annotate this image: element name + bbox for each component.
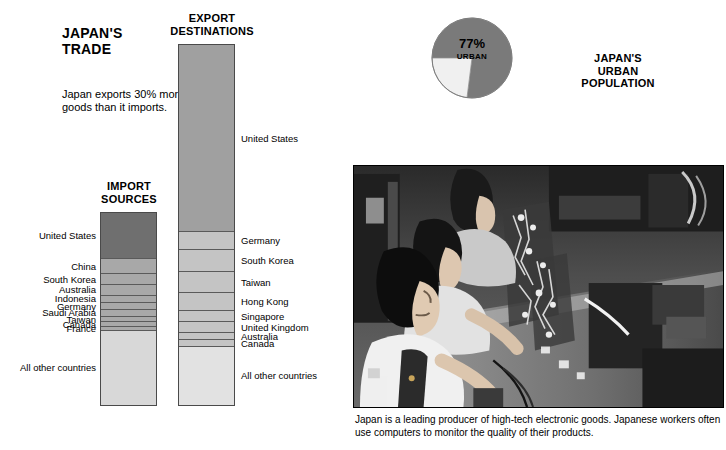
bar-segment	[179, 333, 234, 340]
bar-segment	[101, 331, 156, 405]
bar-segment	[179, 293, 234, 311]
bar-segment	[179, 340, 234, 347]
bar-segment	[179, 250, 234, 272]
pie-slice	[432, 58, 472, 98]
bar-segment-label: France	[0, 324, 96, 334]
bar-segment-label: All other countries	[0, 363, 96, 373]
import-sources-heading: IMPORTSOURCES	[88, 180, 170, 205]
bar-segment	[101, 259, 156, 274]
pie-urban-sublabel: URBAN	[440, 52, 504, 61]
infographic-page: JAPAN'STRADE Japan exports 30% more good…	[0, 0, 726, 450]
bar-segment-label: Taiwan	[241, 278, 361, 288]
intro-paragraph: Japan exports 30% more goods than it imp…	[62, 88, 192, 114]
import-sources-bar	[100, 212, 157, 406]
bar-segment-label: South Korea	[0, 275, 96, 285]
bar-segment	[179, 272, 234, 294]
bar-segment-label: Canada	[241, 339, 361, 349]
page-title: JAPAN'STRADE	[62, 25, 122, 57]
pie-chart-title: JAPAN'SURBANPOPULATION	[560, 52, 676, 90]
export-destinations-heading: EXPORTDESTINATIONS	[166, 12, 258, 37]
bar-segment-label: Singapore	[241, 312, 361, 322]
bar-segment	[101, 310, 156, 317]
bar-segment	[101, 274, 156, 285]
bar-segment-label: China	[0, 262, 96, 272]
bar-segment-label: United States	[241, 134, 361, 144]
bar-segment	[101, 296, 156, 304]
bar-segment	[101, 303, 156, 310]
pie-percent-label: 77%	[440, 37, 504, 51]
export-destinations-bar	[178, 44, 235, 406]
bar-segment	[101, 285, 156, 296]
bar-segment	[179, 232, 234, 250]
bar-segment-label: South Korea	[241, 256, 361, 266]
photo-caption: Japan is a leading producer of high-tech…	[355, 414, 725, 439]
bar-segment	[179, 45, 234, 232]
bar-segment	[179, 311, 234, 322]
bar-segment	[179, 322, 234, 333]
bar-segment-label: Germany	[241, 236, 361, 246]
bar-segment-label: United States	[0, 231, 96, 241]
bar-segment	[179, 347, 234, 405]
bar-segment-label: All other countries	[241, 371, 361, 381]
bar-segment	[101, 213, 156, 259]
bar-segment-label: Hong Kong	[241, 297, 361, 307]
factory-photo	[353, 165, 724, 408]
